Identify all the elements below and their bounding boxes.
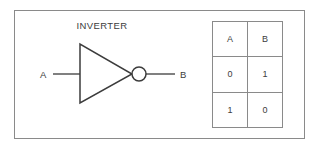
truth-table-header-row: A B xyxy=(213,22,283,57)
input-pin-a-label: A xyxy=(40,70,46,80)
gate-title: INVERTER xyxy=(62,20,142,31)
truth-table-row: 1 0 xyxy=(213,92,283,127)
truth-table-header-a: A xyxy=(213,22,248,57)
truth-table: A B 0 1 1 0 xyxy=(212,21,283,124)
truth-table-cell: 0 xyxy=(248,92,283,127)
truth-table-row: 0 1 xyxy=(213,57,283,92)
inverter-logic-gate-figure: INVERTER A B A B 0 1 1 xyxy=(0,0,317,148)
truth-table-header-b: B xyxy=(248,22,283,57)
output-pin-b-label: B xyxy=(180,70,186,80)
truth-table-cell: 1 xyxy=(213,92,248,127)
truth-table-cell: 0 xyxy=(213,57,248,92)
truth-table-cell: 1 xyxy=(248,57,283,92)
